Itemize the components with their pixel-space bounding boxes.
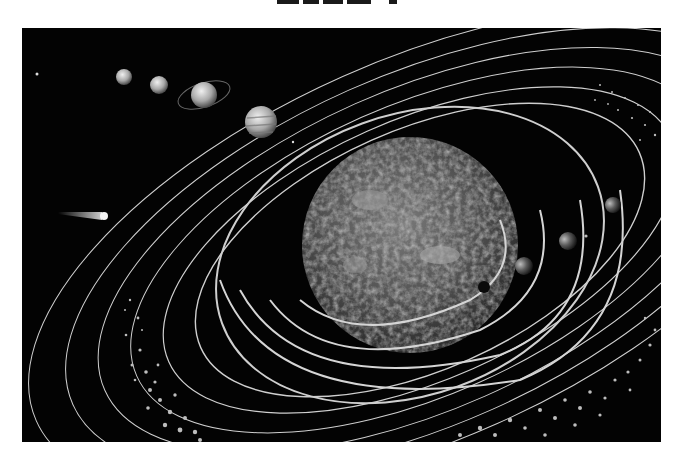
solar-system-illustration bbox=[22, 28, 661, 442]
planet-1 bbox=[116, 69, 132, 85]
planet-2 bbox=[150, 76, 168, 94]
inner-planet-1 bbox=[478, 281, 490, 293]
ringed-planet bbox=[191, 82, 217, 108]
inner-planet-4 bbox=[605, 197, 621, 213]
illustration-canvas bbox=[22, 28, 661, 442]
inner-planet-2 bbox=[515, 257, 533, 275]
inner-planet-3 bbox=[559, 232, 577, 250]
title-fragment bbox=[277, 0, 405, 5]
